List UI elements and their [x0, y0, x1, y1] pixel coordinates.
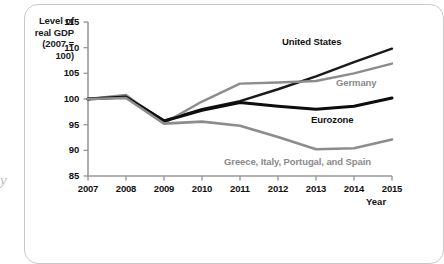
x-tick-label: 2011 [220, 183, 260, 194]
x-tick-label: 2010 [182, 183, 222, 194]
y-tick-label: 85 [55, 170, 79, 181]
y-tick-label: 100 [55, 93, 79, 104]
y-tick-label: 105 [55, 67, 79, 78]
series-label-united-states: United States [282, 36, 341, 47]
x-tick-label: 2013 [296, 183, 336, 194]
x-tick-label: 2007 [68, 183, 108, 194]
y-axis-title-line-2: real GDP [6, 27, 74, 39]
x-tick-label: 2012 [258, 183, 298, 194]
y-tick-label: 95 [55, 119, 79, 130]
series-label-greece-italy-portugal-and-spain: Greece, Italy, Portugal, and Spain [224, 156, 371, 167]
margin-cut-off-glyph: y [0, 169, 14, 191]
x-tick-label: 2014 [334, 183, 374, 194]
y-tick-label: 110 [55, 42, 79, 53]
series-label-eurozone: Eurozone [311, 114, 353, 125]
x-tick-label: 2015 [372, 183, 412, 194]
y-tick-label: 115 [55, 16, 79, 27]
series-label-germany: Germany [336, 77, 377, 88]
x-tick-label: 2009 [144, 183, 184, 194]
x-tick-label: 2008 [106, 183, 146, 194]
x-axis-title: Year [366, 196, 386, 207]
plot-area: 859095100105110115 200720082009201020112… [78, 14, 398, 184]
y-tick-label: 90 [55, 144, 79, 155]
